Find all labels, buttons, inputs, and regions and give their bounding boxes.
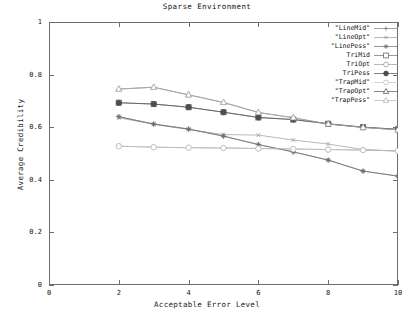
y-tick-mark <box>393 285 398 286</box>
x-tick-label: 10 <box>386 289 410 297</box>
chart-title: Sparse Environment <box>0 2 414 11</box>
legend-item-1: "LineOpt" <box>295 33 399 42</box>
x-tick-mark <box>119 22 120 27</box>
legend-key-plus-icon <box>373 24 399 33</box>
x-tick-label: 2 <box>107 289 131 297</box>
legend-item-4: TriOpt <box>295 60 399 69</box>
y-tick-mark <box>393 232 398 233</box>
data-point-filled-circle <box>186 105 191 110</box>
x-tick-mark <box>398 280 399 285</box>
y-tick-label: 1 <box>8 18 42 26</box>
legend-label: "TrapMid" <box>335 78 370 87</box>
legend-key-opensquare-icon <box>373 51 399 60</box>
y-tick-label: 0.4 <box>8 176 42 184</box>
data-point-star <box>326 157 331 162</box>
x-tick-label: 6 <box>246 289 270 297</box>
data-point-filled-circle <box>256 115 261 120</box>
chart-root: Sparse Environment 00.20.40.60.810246810… <box>0 0 414 320</box>
data-point-star <box>395 174 398 179</box>
x-tick-label: 4 <box>177 289 201 297</box>
legend-key-lightcircle-icon <box>373 78 399 87</box>
data-point-filled-circle <box>151 101 156 106</box>
legend-item-7: "TrapOpt" <box>295 87 399 96</box>
x-tick-label: 0 <box>37 289 61 297</box>
data-point-star <box>151 121 156 126</box>
legend: "LineMid""LineOpt""LinePess"TriMidTriOpt… <box>295 24 399 105</box>
data-point-light-circle <box>326 147 331 152</box>
legend-label: TriPess <box>343 69 370 78</box>
data-point-light-circle <box>151 145 156 150</box>
y-tick-label: 0.6 <box>8 123 42 131</box>
y-tick-mark <box>49 232 54 233</box>
x-tick-mark <box>258 22 259 27</box>
y-tick-label: 0.2 <box>8 228 42 236</box>
data-point-light-circle <box>186 145 191 150</box>
legend-label: TriOpt <box>347 60 370 69</box>
x-tick-mark <box>189 22 190 27</box>
data-point-star <box>116 114 121 119</box>
legend-item-0: "LineMid" <box>295 24 399 33</box>
legend-key-star-icon <box>373 42 399 51</box>
legend-item-3: TriMid <box>295 51 399 60</box>
data-point-star <box>361 169 366 174</box>
legend-item-8: "TrapPess" <box>295 96 399 105</box>
data-point-light-triangle <box>383 98 388 103</box>
legend-label: "LineMid" <box>335 24 370 33</box>
data-point-light-circle <box>221 145 226 150</box>
data-point-star <box>186 126 191 131</box>
data-point-light-circle <box>116 144 121 149</box>
legend-label: "TrapOpt" <box>335 87 370 96</box>
x-tick-mark <box>49 22 50 27</box>
legend-label: "TrapPess" <box>331 96 370 105</box>
data-point-open-triangle <box>383 89 388 94</box>
legend-label: "LineOpt" <box>335 33 370 42</box>
data-point-filled-circle <box>116 100 121 105</box>
legend-key-opentriangle-icon <box>373 87 399 96</box>
y-tick-mark <box>49 75 54 76</box>
data-point-light-circle <box>361 147 366 152</box>
legend-item-2: "LinePess" <box>295 42 399 51</box>
legend-label: "LinePess" <box>331 42 370 51</box>
x-tick-mark <box>119 280 120 285</box>
legend-key-filledcircle-icon <box>373 69 399 78</box>
y-tick-mark <box>49 285 54 286</box>
x-tick-mark <box>258 280 259 285</box>
legend-key-cross-icon <box>373 33 399 42</box>
data-point-open-circle <box>384 62 389 67</box>
legend-item-5: TriPess <box>295 69 399 78</box>
data-point-star <box>221 134 226 139</box>
y-tick-label: 0.8 <box>8 71 42 79</box>
data-point-light-triangle <box>151 84 157 89</box>
data-point-star <box>384 44 389 49</box>
x-tick-mark <box>328 280 329 285</box>
data-point-light-triangle <box>116 86 122 91</box>
data-point-light-circle <box>291 146 296 151</box>
legend-item-6: "TrapMid" <box>295 78 399 87</box>
data-point-light-circle <box>256 146 261 151</box>
data-point-open-square <box>384 53 389 58</box>
data-point-light-circle <box>384 80 389 85</box>
y-tick-mark <box>393 180 398 181</box>
x-tick-mark <box>189 280 190 285</box>
y-tick-label: 0 <box>8 281 42 289</box>
data-point-filled-circle <box>221 110 226 115</box>
x-axis-label: Acceptable Error Level <box>0 300 414 309</box>
y-tick-mark <box>49 180 54 181</box>
y-tick-mark <box>393 127 398 128</box>
x-tick-label: 8 <box>316 289 340 297</box>
data-point-light-circle <box>395 148 398 153</box>
legend-label: TriMid <box>347 51 370 60</box>
x-tick-mark <box>49 280 50 285</box>
y-tick-mark <box>49 127 54 128</box>
legend-key-lighttriangle-icon <box>373 96 399 105</box>
y-axis-label: Average Credibility <box>16 70 25 220</box>
data-point-filled-circle <box>384 71 389 76</box>
legend-key-opencircle-icon <box>373 60 399 69</box>
data-point-plus <box>384 26 389 31</box>
